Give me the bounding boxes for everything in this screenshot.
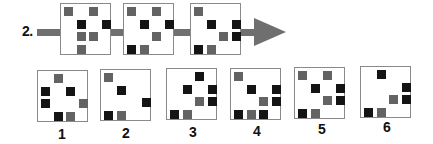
black-square <box>140 20 149 29</box>
option-box-2[interactable] <box>100 69 151 121</box>
arrow-shaft-mid1 <box>111 29 123 36</box>
black-square <box>54 112 63 121</box>
gray-square <box>311 109 320 118</box>
gray-square <box>79 99 88 108</box>
black-square <box>336 96 345 105</box>
black-square <box>165 20 174 29</box>
black-square <box>208 85 217 94</box>
black-square <box>170 110 179 119</box>
gray-square <box>64 7 73 16</box>
option-label-5: 5 <box>312 121 332 137</box>
gray-square <box>89 32 98 41</box>
gray-square <box>207 45 216 54</box>
gray-square <box>195 97 204 106</box>
gray-square <box>259 97 268 106</box>
option-label-4: 4 <box>247 123 267 139</box>
gray-square <box>323 71 332 80</box>
black-square <box>247 85 256 94</box>
black-square <box>234 110 243 119</box>
black-square <box>66 87 75 96</box>
sequence-box-3 <box>190 3 241 55</box>
option-label-3: 3 <box>183 124 203 140</box>
gray-square <box>77 45 86 54</box>
option-box-6[interactable] <box>360 66 411 118</box>
arrow-shaft-start <box>37 29 61 36</box>
gray-square <box>140 45 149 54</box>
black-square <box>104 111 113 120</box>
black-square <box>232 32 241 41</box>
question-number: 2. <box>22 23 33 39</box>
black-square <box>195 72 204 81</box>
black-square <box>142 98 151 107</box>
gray-square <box>219 32 228 41</box>
gray-square <box>66 112 75 121</box>
black-square <box>117 86 126 95</box>
gray-square <box>152 32 161 41</box>
option-box-4[interactable] <box>230 68 281 120</box>
gray-square <box>389 95 398 104</box>
gray-square <box>247 110 256 119</box>
black-square <box>402 83 411 92</box>
black-square <box>77 20 86 29</box>
gray-square <box>194 7 203 16</box>
gray-square <box>104 73 113 82</box>
black-square <box>402 95 411 104</box>
option-label-2: 2 <box>116 125 136 141</box>
black-square <box>364 108 373 117</box>
black-square <box>41 99 50 108</box>
black-square <box>232 20 241 29</box>
black-square <box>208 97 217 106</box>
black-square <box>272 97 281 106</box>
gray-square <box>323 96 332 105</box>
gray-square <box>127 7 136 16</box>
option-label-6: 6 <box>377 119 397 135</box>
gray-square <box>117 111 126 120</box>
option-box-3[interactable] <box>166 68 217 120</box>
gray-square <box>54 74 63 83</box>
arrow-head-icon <box>254 18 286 46</box>
black-square <box>207 20 216 29</box>
option-box-5[interactable] <box>294 67 345 119</box>
black-square <box>127 45 136 54</box>
black-square <box>377 70 386 79</box>
black-square <box>298 109 307 118</box>
black-square <box>311 84 320 93</box>
black-square <box>102 20 111 29</box>
black-square <box>259 110 268 119</box>
gray-square <box>152 7 161 16</box>
gray-square <box>234 72 243 81</box>
gray-square <box>377 108 386 117</box>
sequence-box-2 <box>123 3 174 55</box>
gray-square <box>77 32 86 41</box>
black-square <box>41 87 50 96</box>
gray-square <box>183 110 192 119</box>
option-label-1: 1 <box>52 126 72 142</box>
arrow-shaft-mid2 <box>174 29 191 36</box>
gray-square <box>89 7 98 16</box>
sequence-box-1 <box>60 3 111 55</box>
black-square <box>272 85 281 94</box>
arrow-shaft-end <box>241 29 255 36</box>
option-box-1[interactable] <box>37 70 88 122</box>
black-square <box>194 45 203 54</box>
black-square <box>336 84 345 93</box>
gray-square <box>298 71 307 80</box>
black-square <box>183 85 192 94</box>
